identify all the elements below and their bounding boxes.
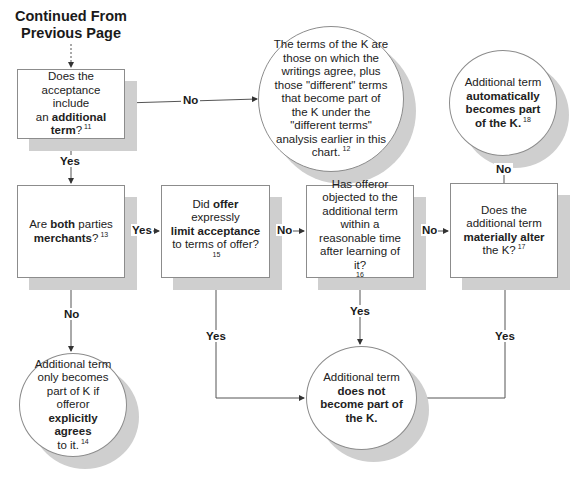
bold-text: does not become part of the K. [320, 385, 402, 424]
text: The terms of the K are those on which th… [274, 38, 388, 158]
result-explicitly-agrees: Additional term only becomes part of K i… [19, 353, 127, 457]
bold-text: term [51, 124, 76, 136]
text: parties [75, 218, 113, 230]
continued-from-previous-page: Continued From Previous Page [0, 8, 142, 42]
bold-text: merchants [34, 232, 92, 244]
header-line-1: Continued From [0, 8, 142, 25]
edge-label-no: No [276, 224, 293, 236]
bold-text: limit acceptance [171, 225, 260, 237]
text: the K? [482, 244, 515, 256]
footnote-ref: 14 [81, 438, 89, 445]
edge-label-yes: Yes [493, 330, 517, 342]
text: Does the [48, 70, 94, 82]
footnote-ref: 18 [523, 116, 531, 123]
edge-label-no: No [421, 224, 438, 236]
question-limit-acceptance: Did offer expresslylimit acceptance to t… [161, 185, 270, 278]
result-does-not-become-part: Additional termdoes not become part of t… [306, 346, 417, 450]
text: Additional term only becomes part of K i… [35, 358, 112, 411]
text: to terms of offer? [172, 238, 259, 250]
question-additional-term: Does the acceptance include an additiona… [17, 69, 125, 139]
question-both-merchants: Are both partiesmerchants?13 [17, 185, 125, 278]
text: ? [92, 232, 98, 244]
text: Additional term [323, 371, 400, 383]
footnote-ref: 13 [100, 231, 108, 238]
result-automatically-part: Additional termautomatically becomes par… [449, 50, 557, 156]
footnote-ref: 16 [356, 271, 364, 278]
text: Has offeror objected to the additional t… [319, 178, 401, 271]
text: Additional term [465, 76, 542, 88]
footnote-ref: 15 [213, 251, 221, 258]
edge-label-yes: Yes [58, 155, 82, 167]
bold-text: materially alter [463, 231, 544, 243]
edge-label-no: No [62, 308, 81, 320]
footnote-ref: 11 [84, 123, 91, 130]
question-materially-alter: Does the additional term materially alte… [450, 183, 558, 278]
question-offeror-objected: Has offeror objected to the additional t… [306, 185, 414, 278]
text: to it. [57, 439, 79, 451]
edge-label-yes: Yes [204, 330, 228, 342]
bold-text: explicitly agrees [48, 412, 97, 438]
text: acceptance include [42, 84, 101, 110]
bold-text: additional [52, 111, 106, 123]
footnote-ref: 12 [342, 145, 350, 152]
bold-text: both [50, 218, 75, 230]
edge-label-no: No [181, 94, 200, 106]
header-line-2: Previous Page [0, 25, 142, 42]
bold-text: offer [213, 198, 239, 210]
text: ? [76, 124, 82, 136]
text: an [36, 111, 52, 123]
result-terms-of-k: The terms of the K are those on which th… [258, 26, 404, 172]
edge-label-yes: Yes [348, 305, 372, 317]
text: Does the additional term [466, 204, 541, 230]
edge-label-no: No [494, 163, 513, 175]
text: expressly [191, 211, 240, 223]
footnote-ref: 17 [518, 243, 526, 250]
edge-label-yes: Yes [131, 224, 153, 236]
text: Are [29, 218, 50, 230]
text: Did [192, 198, 212, 210]
